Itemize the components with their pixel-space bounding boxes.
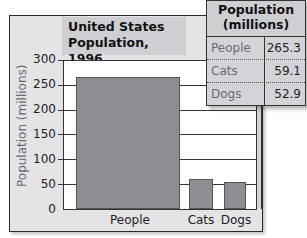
bar-people (76, 77, 180, 209)
x-label-dogs: Dogs (219, 213, 253, 227)
x-label-cats: Cats (186, 213, 216, 227)
table-header-line1: Population (207, 2, 305, 17)
tick (58, 60, 64, 61)
table-row: Cats 59.1 (207, 60, 305, 83)
table-header: Population (millions) (207, 1, 305, 37)
y-tick-label: 150 (26, 127, 56, 141)
table-connector (256, 96, 262, 209)
data-table: Population (millions) People 265.3 Cats … (206, 0, 306, 106)
row-value: 265.3 (265, 41, 305, 55)
tick (58, 159, 64, 160)
row-label: Cats (207, 60, 265, 82)
row-value: 59.1 (265, 64, 305, 78)
row-value: 52.9 (265, 87, 305, 101)
y-tick-label: 0 (26, 202, 56, 216)
tick (58, 110, 64, 111)
tick (58, 184, 64, 185)
chart-title: United States Population, 1996 (62, 17, 186, 55)
bar-cats (189, 179, 213, 209)
table-row: People 265.3 (207, 37, 305, 60)
tick (58, 134, 64, 135)
y-tick-label: 300 (26, 52, 56, 66)
chart-title-line1: United States (68, 19, 186, 35)
row-label: People (207, 37, 265, 59)
x-label-people: People (105, 213, 155, 227)
y-tick-label: 200 (26, 102, 56, 116)
row-label: Dogs (207, 83, 265, 105)
bar-dogs (224, 182, 246, 209)
y-tick-label: 50 (26, 177, 56, 191)
y-tick-label: 250 (26, 77, 56, 91)
table-row: Dogs 52.9 (207, 83, 305, 105)
tick (58, 85, 64, 86)
y-tick-label: 100 (26, 152, 56, 166)
table-header-line2: (millions) (207, 17, 305, 32)
